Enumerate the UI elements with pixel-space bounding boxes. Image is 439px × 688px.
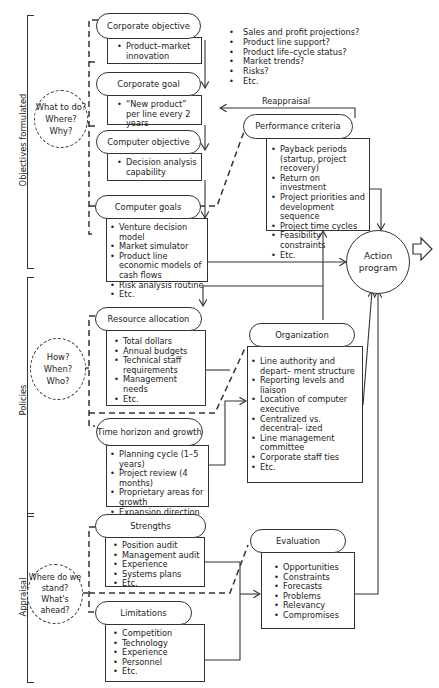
time-horizon-item: Proprietary areas for growth bbox=[110, 488, 206, 507]
organization-box: Line authority and depart– ment structur… bbox=[247, 346, 363, 483]
performance-criteria-item: Project priorities and development seque… bbox=[271, 193, 367, 222]
limitations-item: Etc. bbox=[113, 667, 202, 677]
performance-criteria-item: Payback periods (startup, project recove… bbox=[271, 145, 367, 174]
appraisal-questions-circle: Where do we stand? What's ahead? bbox=[27, 564, 83, 624]
question-what: What to do? bbox=[36, 101, 87, 113]
computer-goals-item: Etc. bbox=[110, 290, 205, 300]
evaluation-item: Compromises bbox=[274, 611, 352, 621]
corporate-objective-box: Product–market innovation bbox=[107, 37, 202, 64]
time-horizon-item: Planning cycle (1–5 years) bbox=[110, 450, 206, 469]
computer-goals-item: Venture decision model bbox=[110, 223, 205, 242]
question-stand: stand? bbox=[28, 583, 82, 594]
market-questions-list: Sales and profit projections? Product li… bbox=[229, 28, 429, 87]
corporate-goal-header: Corporate goal bbox=[96, 72, 201, 96]
resource-allocation-header: Resource allocation bbox=[95, 307, 202, 331]
market-question: Risks? bbox=[229, 67, 429, 77]
limitations-box: Competition Technology Experience Person… bbox=[105, 624, 205, 682]
resource-allocation-box: Total dollars Annual budgets Technical s… bbox=[106, 330, 206, 406]
limitations-header: Limitations bbox=[95, 601, 192, 625]
policies-bracket bbox=[27, 277, 34, 517]
policies-questions-circle: How? When? Who? bbox=[30, 338, 86, 400]
time-horizon-item: Project review (4 months) bbox=[110, 469, 206, 488]
question-who: Who? bbox=[44, 375, 73, 387]
performance-criteria-header: Performance criteria bbox=[243, 114, 353, 139]
organization-item: Location of computer executive bbox=[251, 395, 360, 414]
objectives-section-label: Objectives formulated bbox=[18, 85, 28, 195]
strengths-box: Position audit Management audit Experien… bbox=[105, 537, 205, 587]
strengths-item: Etc. bbox=[113, 579, 202, 589]
organization-item: Line authority and depart– ment structur… bbox=[251, 357, 360, 376]
question-how: How? bbox=[44, 351, 73, 363]
reappraisal-label: Reappraisal bbox=[262, 96, 310, 106]
output-arrow-icon bbox=[413, 238, 433, 260]
organization-item: Centralized vs. decentral– ized bbox=[251, 415, 360, 434]
question-whats-ahead: What's ahead? bbox=[28, 594, 82, 616]
resource-allocation-item: Etc. bbox=[114, 395, 203, 405]
policies-section-label: Policies bbox=[18, 345, 28, 455]
question-when: When? bbox=[44, 363, 73, 375]
resource-allocation-item: Technical staff requirements bbox=[114, 356, 203, 375]
organization-item: Reporting levels and liaison bbox=[251, 376, 360, 395]
organization-item: Line management committee bbox=[251, 434, 360, 453]
computer-objective-item: Decision analysis capability bbox=[117, 158, 197, 177]
question-where: Where? bbox=[36, 113, 87, 125]
action-program-node: Action program bbox=[346, 230, 410, 294]
evaluation-header: Evaluation bbox=[250, 529, 346, 553]
performance-criteria-item: Return on investment bbox=[271, 174, 367, 193]
time-horizon-box: Planning cycle (1–5 years) Project revie… bbox=[106, 445, 209, 507]
corporate-objective-header: Corporate objective bbox=[96, 13, 201, 39]
strengths-header: Strengths bbox=[95, 514, 206, 538]
corporate-objective-item: Product–market innovation bbox=[117, 42, 197, 61]
computer-goals-box: Venture decision model Market simulator … bbox=[106, 218, 208, 282]
action-program-line1: Action bbox=[364, 250, 392, 262]
computer-objective-box: Decision analysis capability bbox=[107, 153, 202, 181]
computer-goals-header: Computer goals bbox=[95, 195, 201, 219]
corporate-goal-item: “New product” per line every 2 years bbox=[117, 100, 197, 129]
strategic-planning-diagram: Objectives formulated Policies Appraisal… bbox=[0, 0, 439, 688]
organization-header: Organization bbox=[249, 323, 355, 347]
question-why: Why? bbox=[36, 125, 87, 137]
corporate-goal-box: “New product” per line every 2 years bbox=[107, 95, 202, 125]
evaluation-box: Opportunities Constraints Forecasts Prob… bbox=[261, 552, 355, 629]
market-question: Etc. bbox=[229, 77, 429, 87]
computer-goals-item: Product line economic models of cash flo… bbox=[110, 252, 205, 281]
objectives-bracket bbox=[27, 15, 34, 269]
resource-allocation-item: Management needs bbox=[114, 375, 203, 394]
objectives-questions-circle: What to do? Where? Why? bbox=[34, 90, 88, 148]
computer-objective-header: Computer objective bbox=[96, 130, 201, 154]
question-where-stand: Where do we bbox=[28, 572, 82, 583]
time-horizon-header: Time horizon and growth bbox=[96, 418, 203, 446]
action-program-line2: program bbox=[359, 262, 397, 274]
performance-criteria-box: Payback periods (startup, project recove… bbox=[266, 138, 370, 231]
organization-item: Etc. bbox=[251, 463, 360, 473]
